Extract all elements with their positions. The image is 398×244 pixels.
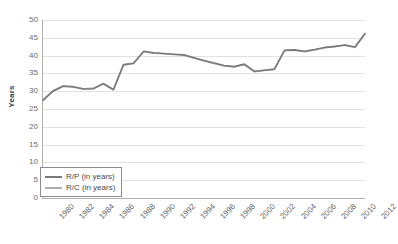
y-tick-label: 40 (18, 52, 38, 60)
y-tick-label: 20 (18, 123, 38, 131)
x-tick-label: 1994 (198, 202, 217, 221)
chart-legend: R/P (in years)R/C (in years) (40, 167, 122, 197)
x-tick-label: 2010 (359, 202, 378, 221)
y-tick-label: 15 (18, 141, 38, 149)
y-tick-label: 50 (18, 16, 38, 24)
x-tick-label: 1980 (57, 202, 76, 221)
y-tick-label: 10 (18, 158, 38, 166)
x-tick-label: 2006 (319, 202, 338, 221)
legend-item[interactable]: R/C (in years) (45, 182, 115, 193)
y-tick-label: 5 (18, 176, 38, 184)
x-tick-label: 1990 (158, 202, 177, 221)
x-tick-label: 1996 (218, 202, 237, 221)
y-tick-label: 35 (18, 69, 38, 77)
series-line (43, 34, 365, 101)
x-tick-label: 1982 (77, 202, 96, 221)
x-tick-label: 1998 (238, 202, 257, 221)
series-line (43, 34, 365, 100)
legend-line-swatch (45, 176, 62, 178)
legend-line-swatch (45, 187, 62, 189)
x-tick-label: 1992 (178, 202, 197, 221)
x-tick-label: 2012 (379, 202, 398, 221)
x-tick-label: 2002 (279, 202, 298, 221)
x-tick-label: 2004 (299, 202, 318, 221)
y-tick-label: 0 (18, 194, 38, 202)
x-tick-label: 2008 (339, 202, 358, 221)
x-axis-tick-labels: 1980198219841986198819901992199419961998… (42, 200, 372, 244)
y-axis-tick-labels: 50454035302520151050 (18, 14, 38, 198)
legend-item[interactable]: R/P (in years) (45, 171, 115, 182)
y-tick-label: 30 (18, 87, 38, 95)
x-tick-label: 1986 (118, 202, 137, 221)
x-tick-label: 1988 (138, 202, 157, 221)
y-tick-label: 45 (18, 34, 38, 42)
legend-item-label: R/C (in years) (66, 183, 115, 192)
legend-item-label: R/P (in years) (66, 172, 115, 181)
x-tick-label: 2000 (258, 202, 277, 221)
x-tick-label: 1984 (97, 202, 116, 221)
y-axis-title: Years (7, 74, 16, 120)
y-tick-label: 25 (18, 105, 38, 113)
